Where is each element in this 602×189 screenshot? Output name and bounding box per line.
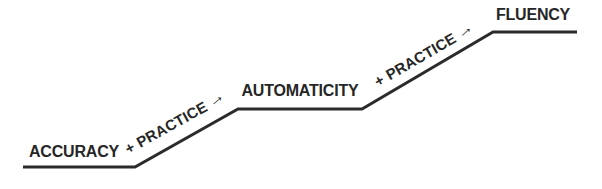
stage-label-automaticity: AUTOMATICITY <box>242 82 359 100</box>
stage-label-fluency: FLUENCY <box>496 6 570 24</box>
staircase-diagram: ACCURACY AUTOMATICITY FLUENCY + PRACTICE… <box>0 0 602 189</box>
stage-label-accuracy: ACCURACY <box>29 143 119 161</box>
